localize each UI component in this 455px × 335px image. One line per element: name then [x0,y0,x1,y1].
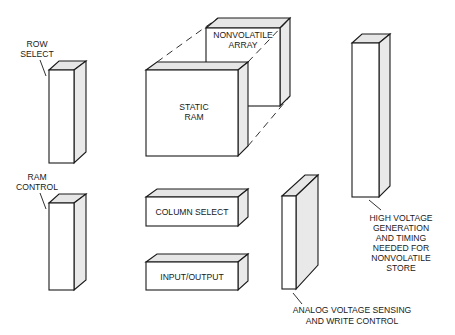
high-voltage-label-line4: NEEDED FOR [373,243,429,253]
ram-control-label-line2: CONTROL [16,182,58,192]
ram-control-block: RAM CONTROL [16,172,86,290]
column-select-label: COLUMN SELECT [155,207,229,217]
analog-leader-line [293,293,302,304]
static-ram-label-line2: RAM [184,112,203,122]
row-select-label-line1: ROW [26,39,48,49]
analog-label-line2: AND WRITE CONTROL [306,316,399,326]
static-ram-label-line1: STATIC [179,102,208,112]
ram-control-front-face [49,203,74,290]
high-voltage-leader-line [369,200,381,210]
high-voltage-side-face [379,34,390,197]
analog-label-line1: ANALOG VOLTAGE SENSING [293,305,412,315]
high-voltage-label-line2: GENERATION [373,223,429,233]
analog-side-face [296,175,318,289]
nonvolatile-side-face [280,18,290,106]
ram-control-label-line1: RAM [27,172,46,182]
nonvolatile-label-line1: NONVOLATILE [213,30,273,40]
high-voltage-label-line3: AND TIMING [376,233,427,243]
column-select-block: COLUMN SELECT [146,189,248,226]
nonvolatile-label-line2: ARRAY [229,40,258,50]
high-voltage-label-line6: STORE [386,263,416,273]
row-select-leader-line [40,60,46,76]
row-select-label-line2: SELECT [20,49,54,59]
input-output-block: INPUT/OUTPUT [146,254,248,290]
ram-control-leader-line [40,193,46,209]
high-voltage-front-face [352,43,379,197]
static-ram-top-face [146,62,248,70]
high-voltage-label-line5: NONVOLATILE [371,253,431,263]
static-ram-side-face [238,62,248,156]
high-voltage-block: HIGH VOLTAGE GENERATION AND TIMING NEEDE… [352,34,433,273]
row-select-side-face [74,61,86,163]
static-ram-block: STATIC RAM [146,62,248,156]
row-select-front-face [49,70,74,163]
high-voltage-label-line1: HIGH VOLTAGE [369,213,432,223]
analog-front-face [282,196,296,289]
input-output-label: INPUT/OUTPUT [160,272,224,282]
nonvolatile-top-face [206,18,290,28]
eeprom-block-diagram: NONVOLATILE ARRAY STATIC RAM ROW SELECT … [0,0,455,335]
row-select-block: ROW SELECT [20,39,86,163]
ram-control-side-face [74,194,86,290]
input-output-top-face [146,254,248,262]
column-select-top-face [146,189,248,197]
